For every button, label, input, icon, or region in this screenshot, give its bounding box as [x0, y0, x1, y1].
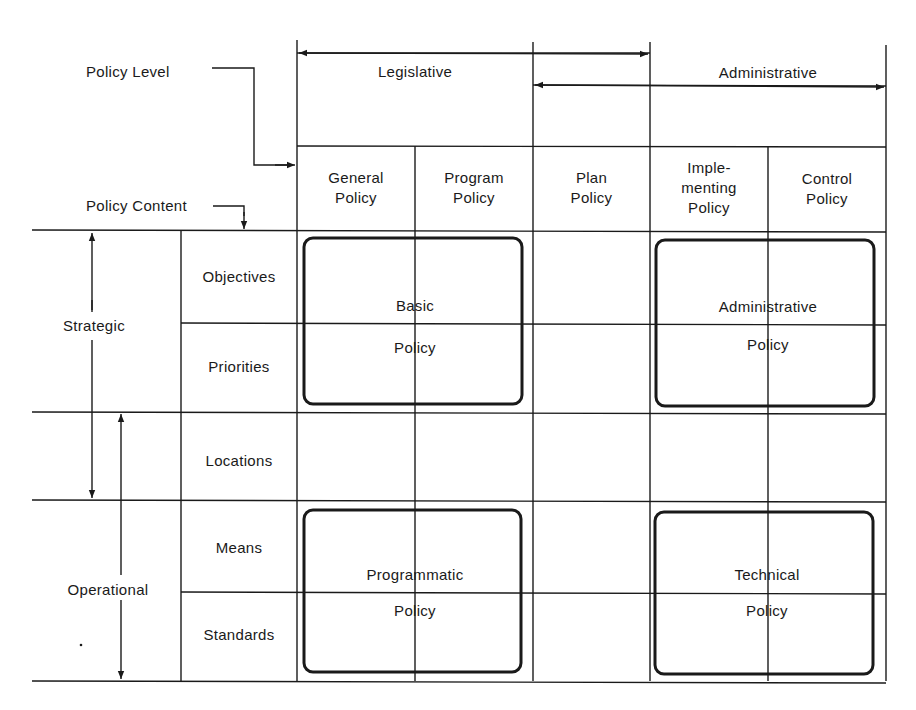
row-locations: Locations: [181, 451, 297, 471]
column-control-policy: Control Policy: [768, 169, 886, 209]
basic-policy-box: [304, 238, 522, 404]
basic-policy-line2: Policy: [304, 338, 526, 358]
row-means: Means: [181, 538, 297, 558]
level-legislative: Legislative: [297, 62, 533, 82]
row-objectives: Objectives: [181, 267, 297, 287]
programmatic-policy-line2: Policy: [304, 601, 526, 621]
column-general-policy: General Policy: [297, 168, 415, 208]
basic-policy-line1: Basic: [304, 296, 526, 316]
programmatic-policy-box: [304, 510, 521, 672]
policy-level-pointer: [212, 68, 293, 165]
column-plan-policy: Plan Policy: [533, 168, 650, 208]
policy-level-label: Policy Level: [86, 62, 170, 82]
legislative-arrow-right: [297, 53, 648, 54]
column-implementing-policy: Imple- menting Policy: [650, 158, 768, 218]
row-standards: Standards: [181, 625, 297, 645]
policy-content-label: Policy Content: [86, 196, 187, 216]
column-program-policy: Program Policy: [415, 168, 533, 208]
administrative-policy-line1: Administrative: [656, 297, 880, 317]
category-operational: Operational: [58, 580, 158, 600]
programmatic-policy-line1: Programmatic: [304, 565, 526, 585]
administrative-policy-line2: Policy: [656, 335, 880, 355]
administrative-policy-box: [656, 240, 874, 406]
level-administrative: Administrative: [650, 63, 886, 83]
row-priorities: Priorities: [181, 357, 297, 377]
technical-policy-line1: Technical: [655, 565, 879, 585]
technical-policy-line2: Policy: [655, 601, 879, 621]
category-strategic: Strategic: [54, 316, 134, 336]
